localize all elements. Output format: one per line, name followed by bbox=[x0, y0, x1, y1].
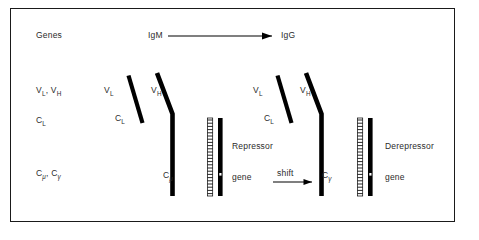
right-ch-sub: γ bbox=[328, 175, 331, 182]
left-cl-label: CL bbox=[115, 113, 125, 125]
igm-label: IgM bbox=[148, 30, 163, 40]
repressor-label-line2: gene bbox=[232, 172, 252, 182]
figure-border bbox=[10, 8, 455, 222]
left-ch-label: Cμ bbox=[163, 170, 173, 182]
right-ch-label: Cγ bbox=[322, 170, 332, 182]
left-vh-label: VH bbox=[151, 85, 162, 97]
legend-ch-sub2: γ bbox=[58, 173, 61, 180]
left-vl-label: VL bbox=[104, 85, 114, 97]
igg-label: IgG bbox=[281, 30, 295, 40]
legend-cl-gene: CL bbox=[36, 115, 46, 127]
derepressor-label-line1: Derepressor bbox=[385, 141, 434, 151]
left-vl-sub: L bbox=[110, 90, 114, 97]
left-vh-sub: H bbox=[157, 90, 162, 97]
derepressor-label-line2: gene bbox=[385, 172, 405, 182]
legend-cl-sub: L bbox=[42, 120, 46, 127]
figure-canvas: Genes IgM IgG VL, VH CL Cμ, Cγ VL VH CL … bbox=[0, 0, 479, 240]
left-cl-sub: L bbox=[121, 118, 125, 125]
right-cl-sub: L bbox=[270, 118, 274, 125]
left-ch-sub: μ bbox=[169, 175, 173, 182]
legend-v-genes-sub2: H bbox=[57, 90, 62, 97]
genes-heading: Genes bbox=[36, 30, 62, 40]
shift-label: shift bbox=[277, 168, 294, 178]
right-cl-label: CL bbox=[264, 113, 274, 125]
legend-ch-c2: , C bbox=[46, 168, 57, 178]
right-vh-sub: H bbox=[306, 90, 311, 97]
right-vh-label: VH bbox=[300, 85, 311, 97]
legend-c-heavy-genes: Cμ, Cγ bbox=[36, 168, 61, 180]
right-vl-sub: L bbox=[259, 90, 263, 97]
right-vl-label: VL bbox=[253, 85, 263, 97]
legend-v-genes-v2: , V bbox=[46, 85, 57, 95]
repressor-label-line1: Repressor bbox=[232, 141, 273, 151]
legend-v-genes: VL, VH bbox=[36, 85, 61, 97]
